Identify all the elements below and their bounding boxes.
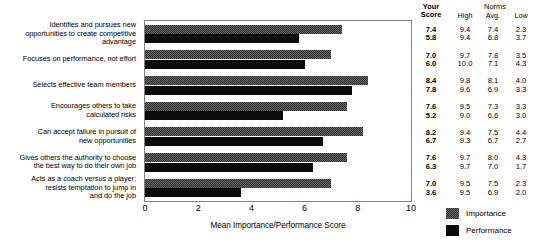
legend-label: Importance: [466, 208, 506, 219]
legend-swatch-importance: [446, 208, 459, 219]
x-tick-label: 8: [355, 203, 360, 214]
bar-performance: [145, 111, 283, 120]
category-label: Focuses on performance, not effort: [0, 55, 136, 64]
your-score-line-2: Score: [414, 11, 448, 19]
bars-layer: [145, 21, 411, 201]
chart-root: Identifies and pursues newopportunities …: [0, 0, 540, 250]
score-cell-avg-performance: 7.1: [480, 60, 506, 69]
score-cell-high-performance: 9.7: [452, 163, 478, 172]
score-cell-your-performance: 3.6: [414, 189, 448, 198]
category-axis-labels: Identifies and pursues newopportunities …: [0, 22, 140, 202]
score-cell-high-performance: 9.5: [452, 189, 478, 198]
chart-legend: ImportancePerformance: [446, 206, 540, 246]
score-cell-your-performance: 5.8: [414, 34, 448, 43]
score-cell-low-performance: 2.0: [508, 189, 534, 198]
bar-performance: [145, 60, 305, 69]
category-label: Can accept failure in pursuit ofnew oppo…: [0, 128, 136, 145]
score-table-row: 8.26.79.49.37.56.74.42.7: [414, 129, 540, 149]
category-label-line: calculated risks: [0, 111, 136, 120]
x-axis-title: Mean Importance/Performance Score: [144, 221, 412, 230]
bar-importance: [145, 25, 342, 34]
score-cell-your-performance: 6.0: [414, 60, 448, 69]
legend-swatch-performance: [446, 225, 459, 236]
score-table-header-avg: Avg.: [480, 12, 506, 20]
score-table-row: 7.03.69.59.57.56.92.32.0: [414, 180, 540, 200]
bar-importance: [145, 127, 363, 136]
score-cell-low-performance: 3.0: [508, 112, 534, 121]
category-label: Identifies and pursues newopportunities …: [0, 21, 136, 47]
score-cell-high-performance: 9.4: [452, 34, 478, 43]
category-label: Acts as a coach versus a player;resists …: [0, 175, 136, 201]
category-label-line: new opportunities: [0, 137, 136, 146]
legend-item: Performance: [446, 223, 540, 239]
legend-item: Importance: [446, 206, 540, 222]
bar-performance: [145, 163, 313, 172]
category-label-line: advantage: [0, 38, 136, 47]
bar-performance: [145, 137, 323, 146]
legend-label: Performance: [466, 225, 512, 236]
x-tick-label: 10: [406, 203, 416, 214]
score-cell-your-performance: 6.3: [414, 163, 448, 172]
bar-performance: [145, 188, 241, 197]
x-axis-ticks: 0246810: [144, 203, 412, 217]
score-cell-avg-performance: 6.6: [480, 112, 506, 121]
score-table-row: 7.66.39.79.78.07.04.31.7: [414, 154, 540, 174]
x-tick-label: 2: [196, 203, 201, 214]
score-cell-avg-performance: 6.8: [480, 34, 506, 43]
score-cell-avg-performance: 6.7: [480, 137, 506, 146]
score-cell-low-performance: 2.7: [508, 137, 534, 146]
score-cell-low-performance: 1.7: [508, 163, 534, 172]
score-cell-low-performance: 4.3: [508, 60, 534, 69]
score-cell-your-performance: 5.2: [414, 112, 448, 121]
score-cell-your-performance: 7.8: [414, 86, 448, 95]
bar-importance: [145, 76, 368, 85]
category-label-line: Focuses on performance, not effort: [0, 55, 136, 64]
score-table: Your Score Norms High Avg. Low 7.45.89.4…: [414, 0, 540, 202]
category-label: Encourages others to takecalculated risk…: [0, 102, 136, 119]
category-label: Selects effective team members: [0, 81, 136, 90]
category-label: Gives others the authority to choosethe …: [0, 154, 136, 171]
bar-performance: [145, 34, 299, 43]
score-cell-low-performance: 3.3: [508, 86, 534, 95]
category-label-line: Selects effective team members: [0, 81, 136, 90]
score-table-header-your-score: Your Score: [414, 3, 448, 20]
score-cell-high-performance: 10.0: [452, 60, 478, 69]
x-tick-label: 4: [249, 203, 254, 214]
score-cell-high-performance: 9.0: [452, 112, 478, 121]
score-table-row: 8.47.89.89.68.16.94.03.3: [414, 77, 540, 97]
score-cell-low-performance: 3.7: [508, 34, 534, 43]
score-cell-your-performance: 6.7: [414, 137, 448, 146]
bar-importance: [145, 50, 331, 59]
bar-importance: [145, 179, 331, 188]
score-table-header-high: High: [452, 12, 478, 20]
bar-performance: [145, 86, 352, 95]
score-table-row: 7.06.09.710.07.87.13.54.3: [414, 52, 540, 72]
score-cell-high-performance: 9.3: [452, 137, 478, 146]
x-tick-label: 6: [302, 203, 307, 214]
bar-importance: [145, 102, 347, 111]
score-cell-avg-performance: 6.9: [480, 189, 506, 198]
x-tick-label: 0: [142, 203, 147, 214]
score-cell-avg-performance: 6.9: [480, 86, 506, 95]
score-table-row: 7.45.89.49.47.46.82.33.7: [414, 26, 540, 46]
score-table-header-low: Low: [508, 12, 534, 20]
score-cell-high-performance: 9.6: [452, 86, 478, 95]
score-table-row: 7.65.29.59.07.36.63.33.0: [414, 103, 540, 123]
category-label-line: the best way to do their own job: [0, 162, 136, 171]
score-cell-avg-performance: 7.0: [480, 163, 506, 172]
category-label-line: and do the job: [0, 192, 136, 201]
bar-importance: [145, 153, 347, 162]
